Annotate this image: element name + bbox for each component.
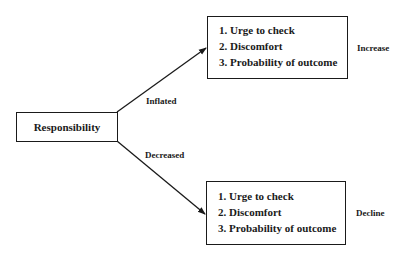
list-item: 3. Probability of outcome [219, 54, 337, 70]
inflated-edge-label: Inflated [146, 96, 177, 106]
list-item: 2. Discomfort [219, 38, 337, 54]
increase-label: Increase [357, 43, 389, 53]
list-item: 2. Discomfort [218, 204, 336, 220]
bottom-outcome-list: 1. Urge to check 2. Discomfort 3. Probab… [218, 188, 336, 236]
list-item: 1. Urge to check [219, 22, 337, 38]
responsibility-label: Responsibility [34, 121, 101, 133]
top-outcome-box: 1. Urge to check 2. Discomfort 3. Probab… [207, 16, 348, 79]
responsibility-node: Responsibility [16, 112, 118, 142]
decreased-edge-label: Decreased [145, 150, 184, 160]
bottom-outcome-box: 1. Urge to check 2. Discomfort 3. Probab… [206, 181, 346, 245]
decline-label: Decline [356, 208, 385, 218]
list-item: 3. Probability of outcome [218, 220, 336, 236]
list-item: 1. Urge to check [218, 188, 336, 204]
top-outcome-list: 1. Urge to check 2. Discomfort 3. Probab… [219, 22, 337, 70]
